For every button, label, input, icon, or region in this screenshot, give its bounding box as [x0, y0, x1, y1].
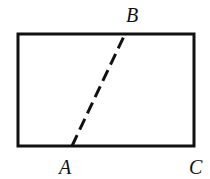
label-a: A — [57, 156, 72, 178]
label-c: C — [189, 156, 203, 178]
geometry-diagram: B A C — [0, 0, 210, 179]
dashed-segment-ab — [72, 34, 125, 146]
rectangle — [18, 34, 194, 146]
label-b: B — [126, 4, 138, 26]
